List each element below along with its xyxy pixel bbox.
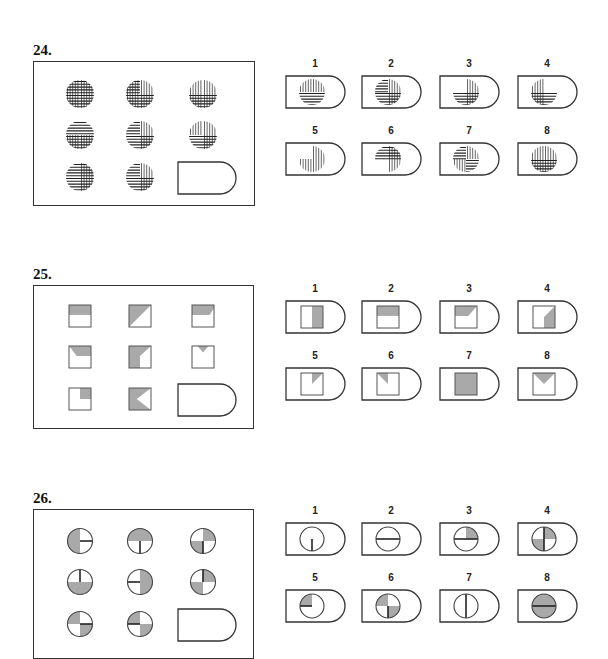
question-26-option-3-label: 3 [459, 505, 479, 516]
question-25-option-2-label: 2 [381, 283, 401, 294]
question-26-matrix-cell [124, 566, 156, 598]
question-25-matrix-cell [187, 341, 219, 373]
question-26-option-7[interactable] [439, 589, 500, 623]
question-25-option-4[interactable] [517, 300, 578, 334]
question-25-answer-slot [177, 383, 237, 417]
question-25-option-7-label: 7 [459, 350, 479, 361]
question-26-option-2-label: 2 [381, 505, 401, 516]
question-26-matrix-cell [124, 525, 156, 557]
question-24-option-5[interactable] [285, 142, 346, 176]
question-26-option-6-label: 6 [381, 572, 401, 583]
question-25-option-2[interactable] [361, 300, 422, 334]
question-25-option-6[interactable] [361, 367, 422, 401]
question-24-matrix-cell [124, 161, 156, 193]
question-25-matrix-cell [64, 383, 96, 415]
question-24-matrix-cell [64, 78, 96, 110]
question-25-option-7[interactable] [439, 367, 500, 401]
question-25-matrix-cell [124, 383, 156, 415]
question-26-option-2[interactable] [361, 522, 422, 556]
question-25-option-3[interactable] [439, 300, 500, 334]
question-24-option-6-label: 6 [381, 125, 401, 136]
question-24-option-1[interactable] [285, 75, 346, 109]
question-26-number: 26. [33, 490, 52, 507]
question-25-option-5-label: 5 [305, 350, 325, 361]
question-25-option-3-label: 3 [459, 283, 479, 294]
question-26-matrix-cell [64, 566, 96, 598]
question-26-matrix-cell [187, 566, 219, 598]
question-25-number: 25. [33, 266, 52, 283]
question-24-option-1-label: 1 [305, 58, 325, 69]
question-26-option-4-label: 4 [537, 505, 557, 516]
question-25-option-6-label: 6 [381, 350, 401, 361]
question-26-option-4[interactable] [517, 522, 578, 556]
question-24-option-8-label: 8 [537, 125, 557, 136]
question-26-matrix-cell [187, 525, 219, 557]
question-25-matrix-cell [124, 341, 156, 373]
question-24-option-2-label: 2 [381, 58, 401, 69]
question-25-matrix-cell [64, 300, 96, 332]
question-25-matrix-cell [187, 300, 219, 332]
question-26-option-8-label: 8 [537, 572, 557, 583]
question-26-option-7-label: 7 [459, 572, 479, 583]
question-24-option-3[interactable] [439, 75, 500, 109]
question-26-matrix-cell [64, 525, 96, 557]
question-26-matrix-cell [124, 608, 156, 640]
question-24-option-6[interactable] [361, 142, 422, 176]
question-24-matrix-cell [187, 119, 219, 151]
question-24-matrix-cell [64, 119, 96, 151]
question-24-option-4-label: 4 [537, 58, 557, 69]
question-24-matrix-cell [187, 78, 219, 110]
question-26-option-3[interactable] [439, 522, 500, 556]
question-25-option-8-label: 8 [537, 350, 557, 361]
question-24-matrix-cell [64, 161, 96, 193]
question-24-answer-slot [177, 161, 237, 195]
question-25-option-1-label: 1 [305, 283, 325, 294]
question-25-option-8[interactable] [517, 367, 578, 401]
question-25-option-5[interactable] [285, 367, 346, 401]
question-26-option-1-label: 1 [305, 505, 325, 516]
question-26-option-8[interactable] [517, 589, 578, 623]
question-24-option-2[interactable] [361, 75, 422, 109]
question-26-option-1[interactable] [285, 522, 346, 556]
question-25-matrix-cell [124, 300, 156, 332]
question-24-matrix-cell [124, 119, 156, 151]
question-24-number: 24. [33, 42, 52, 59]
question-26-option-6[interactable] [361, 589, 422, 623]
question-24-option-8[interactable] [517, 142, 578, 176]
question-25-matrix-cell [64, 341, 96, 373]
question-24-option-3-label: 3 [459, 58, 479, 69]
question-26-matrix-cell [64, 608, 96, 640]
question-25-option-1[interactable] [285, 300, 346, 334]
question-26-option-5[interactable] [285, 589, 346, 623]
question-26-answer-slot [177, 608, 237, 642]
question-24-option-7[interactable] [439, 142, 500, 176]
question-24-matrix-cell [124, 78, 156, 110]
question-24-option-5-label: 5 [305, 125, 325, 136]
question-24-option-7-label: 7 [459, 125, 479, 136]
question-26-option-5-label: 5 [305, 572, 325, 583]
question-24-option-4[interactable] [517, 75, 578, 109]
question-25-option-4-label: 4 [537, 283, 557, 294]
